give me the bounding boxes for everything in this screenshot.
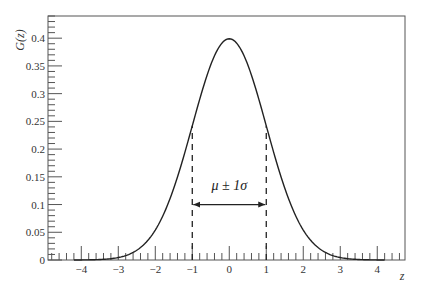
plot-frame xyxy=(48,16,405,260)
y-tick-label: 0.1 xyxy=(31,199,45,211)
y-tick-label: 0.25 xyxy=(26,115,46,127)
gaussian-chart: 00.050.10.150.20.250.30.350.4 −4−3−2−101… xyxy=(0,0,423,295)
x-tick-label: 4 xyxy=(375,263,381,275)
x-tick-label: 0 xyxy=(227,263,233,275)
y-tick-label: 0.4 xyxy=(31,32,45,44)
sigma-annotation: μ ± 1σ xyxy=(192,126,266,260)
x-tick-label: −3 xyxy=(112,263,124,275)
x-tick-label: −1 xyxy=(186,263,198,275)
y-axis: 00.050.10.150.20.250.30.350.4 xyxy=(26,16,62,266)
x-tick-label: 3 xyxy=(338,263,344,275)
y-tick-label: 0 xyxy=(40,254,46,266)
y-tick-label: 0.2 xyxy=(31,143,45,155)
y-tick-label: 0.05 xyxy=(26,226,46,238)
x-tick-label: −4 xyxy=(75,263,87,275)
gaussian-curve xyxy=(74,39,385,260)
y-tick-label: 0.15 xyxy=(26,171,46,183)
x-tick-label: −2 xyxy=(149,263,161,275)
x-tick-label: 1 xyxy=(264,263,270,275)
y-tick-label: 0.3 xyxy=(31,88,45,100)
x-axis-title: z xyxy=(399,269,405,283)
frame-border xyxy=(48,16,405,260)
x-tick-label: 2 xyxy=(301,263,307,275)
y-tick-label: 0.35 xyxy=(26,60,46,72)
sigma-range-label: μ ± 1σ xyxy=(210,178,248,193)
y-axis-title: G(z) xyxy=(13,29,27,50)
